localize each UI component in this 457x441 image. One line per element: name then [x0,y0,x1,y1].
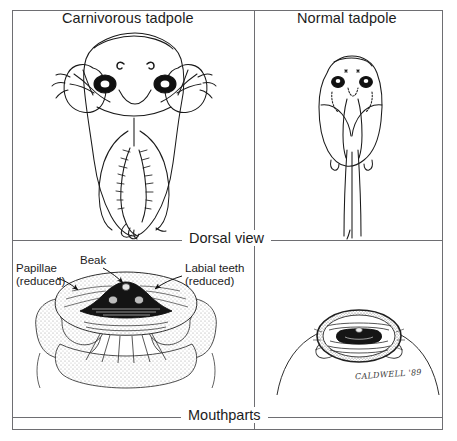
panel-title-normal: Normal tadpole [297,10,397,26]
panel-divider-vertical [254,10,255,430]
annotation-papillae-line1: Papillae [16,262,65,275]
figure-root: Carnivorous tadpole Normal tadpole Dorsa… [0,0,457,441]
figure-frame [12,10,443,430]
annotation-beak-line1: Beak [80,254,106,267]
annotation-beak: Beak [80,254,106,267]
row-caption-dorsal-view: Dorsal view [182,230,271,246]
row-caption-mouthparts: Mouthparts [181,407,268,423]
annotation-papillae-line2: (reduced) [16,275,65,288]
annotation-labial-teeth-line1: Labial teeth [185,262,244,275]
panel-title-carnivorous: Carnivorous tadpole [62,10,194,26]
annotation-papillae: Papillae (reduced) [16,262,65,287]
annotation-labial-teeth: Labial teeth (reduced) [185,262,244,287]
annotation-labial-teeth-line2: (reduced) [185,275,244,288]
